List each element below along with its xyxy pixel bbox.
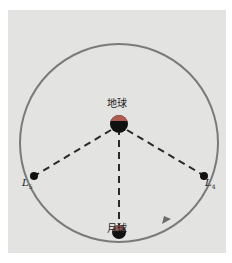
orbit-direction-arrow-icon xyxy=(162,216,171,224)
l5-label: L5 xyxy=(22,178,32,190)
earth-label: 地球 xyxy=(107,99,127,109)
moon-label: 月球 xyxy=(107,224,127,234)
l5-label-main: L xyxy=(22,177,29,188)
l4-label: L4 xyxy=(205,178,215,190)
l4-label-main: L xyxy=(205,177,212,188)
lagrange-diagram-figure: 地球 月球 L5 L4 xyxy=(0,0,232,263)
earth-to-l4-dashed-line xyxy=(127,130,203,175)
l5-label-subscript: 5 xyxy=(29,183,33,190)
earth-to-l5-dashed-line xyxy=(36,130,111,175)
earth-icon xyxy=(108,113,130,133)
l4-label-subscript: 4 xyxy=(212,183,216,190)
